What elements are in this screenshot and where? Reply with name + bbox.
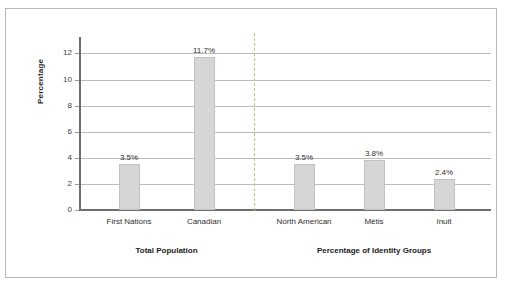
category-label: North American bbox=[276, 218, 331, 226]
y-tick-mark bbox=[75, 80, 79, 81]
gridline bbox=[81, 184, 491, 185]
y-tick-label: 12 bbox=[63, 49, 72, 57]
y-tick-mark bbox=[75, 184, 79, 185]
bar bbox=[434, 179, 455, 210]
category-label: Canadian bbox=[187, 218, 221, 226]
bar bbox=[194, 57, 215, 210]
group-label: Percentage of Identity Groups bbox=[317, 247, 431, 255]
bar-value-label: 2.4% bbox=[435, 169, 453, 177]
bar-value-label: 3.5% bbox=[295, 154, 313, 162]
bar bbox=[294, 164, 315, 210]
chart-figure: Percentage 024681012 3.5%11.7%3.5%3.8%2.… bbox=[5, 8, 497, 278]
x-axis-line bbox=[79, 209, 491, 211]
plot-area: 024681012 3.5%11.7%3.5%3.8%2.4% bbox=[79, 43, 491, 210]
category-label: Inuit bbox=[436, 218, 451, 226]
y-tick-mark bbox=[75, 106, 79, 107]
bar-value-label: 3.8% bbox=[365, 150, 383, 158]
gridline bbox=[81, 158, 491, 159]
y-tick-mark bbox=[75, 210, 79, 211]
y-tick-label: 10 bbox=[63, 76, 72, 84]
category-label: First Nations bbox=[107, 218, 152, 226]
y-tick-label: 8 bbox=[68, 102, 72, 110]
gridline bbox=[81, 80, 491, 81]
bar-value-label: 3.5% bbox=[120, 154, 138, 162]
y-tick-label: 6 bbox=[68, 128, 72, 136]
gridline bbox=[81, 106, 491, 107]
y-tick-mark bbox=[75, 158, 79, 159]
bar bbox=[119, 164, 140, 210]
y-axis-title: Percentage bbox=[36, 59, 45, 104]
bar-value-label: 11.7% bbox=[193, 47, 215, 55]
gridline bbox=[81, 132, 491, 133]
bar bbox=[364, 160, 385, 210]
y-tick-label: 2 bbox=[68, 180, 72, 188]
category-label: Métis bbox=[364, 218, 383, 226]
y-tick-mark bbox=[75, 132, 79, 133]
gridline bbox=[81, 53, 491, 54]
y-tick-label: 0 bbox=[68, 206, 72, 214]
y-tick-mark bbox=[75, 53, 79, 54]
y-tick-label: 4 bbox=[68, 154, 72, 162]
group-divider bbox=[254, 33, 255, 211]
group-label: Total Population bbox=[135, 247, 197, 255]
